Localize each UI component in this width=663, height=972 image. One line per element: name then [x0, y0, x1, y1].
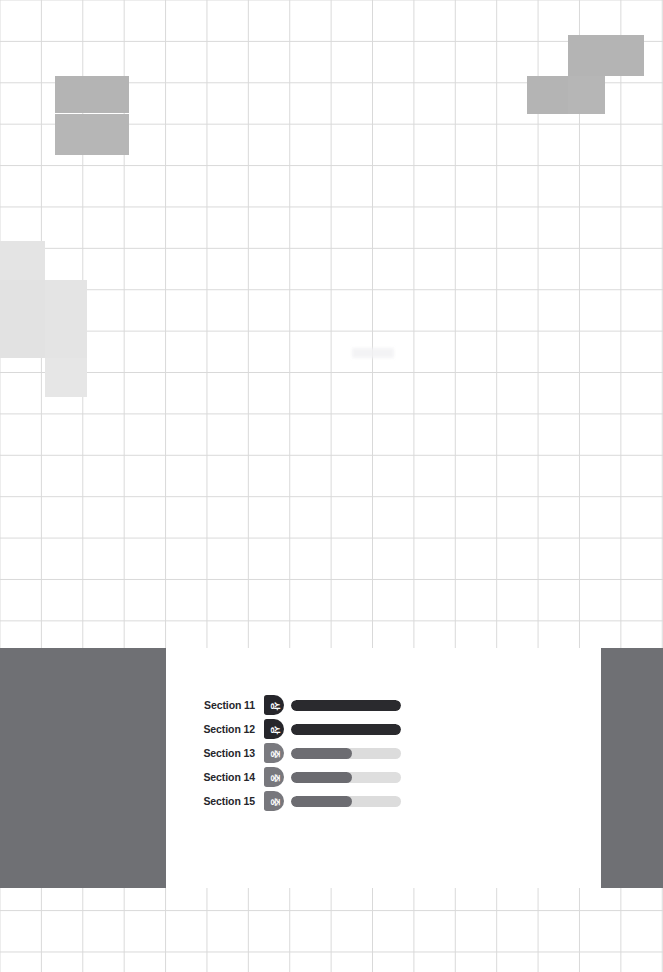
level-badge[interactable]: 중 [264, 791, 284, 811]
section-row[interactable]: Section 13중 [183, 741, 583, 765]
level-badge[interactable]: 중 [264, 743, 284, 763]
cell-mid-left-a [0, 241, 45, 280]
cell-top-left-b [92, 76, 129, 113]
level-badge[interactable]: 상 [264, 719, 284, 739]
section-row[interactable]: Section 15중 [183, 789, 583, 813]
section-progress-list: Section 11상Section 12상Section 13중Section… [183, 693, 583, 813]
progress-bar-track[interactable] [291, 700, 401, 711]
section-row[interactable]: Section 12상 [183, 717, 583, 741]
progress-bar-track[interactable] [291, 772, 401, 783]
section-row[interactable]: Section 14중 [183, 765, 583, 789]
progress-bar-track[interactable] [291, 724, 401, 735]
progress-bar-fill [291, 796, 352, 807]
cell-mid-left-d [0, 319, 45, 358]
cell-mid-left-b [0, 280, 45, 319]
cell-top-left-a [55, 76, 92, 113]
level-badge[interactable]: 상 [264, 695, 284, 715]
page-root: Section 11상Section 12상Section 13중Section… [0, 0, 663, 972]
progress-bar-track[interactable] [291, 796, 401, 807]
level-badge-glyph: 상 [270, 725, 279, 733]
section-row-label: Section 12 [183, 723, 264, 735]
level-badge-glyph: 중 [270, 749, 279, 757]
section-progress-card: Section 11상Section 12상Section 13중Section… [166, 648, 601, 888]
section-row-label: Section 15 [183, 795, 264, 807]
level-badge[interactable]: 중 [264, 767, 284, 787]
progress-bar-fill [291, 748, 352, 759]
level-badge-glyph: 중 [270, 797, 279, 805]
section-row-label: Section 14 [183, 771, 264, 783]
progress-bar-fill [291, 772, 352, 783]
cell-top-right-b [605, 35, 644, 76]
cell-mid-left-e [45, 319, 87, 358]
section-row[interactable]: Section 11상 [183, 693, 583, 717]
progress-bar-fill [291, 724, 401, 735]
cell-top-right-a [568, 35, 605, 76]
cell-mid-left-c [45, 280, 87, 319]
level-badge-glyph: 상 [270, 701, 279, 709]
progress-bar-fill [291, 700, 401, 711]
progress-bar-track[interactable] [291, 748, 401, 759]
cell-top-left-c [55, 114, 92, 155]
section-row-label: Section 11 [183, 699, 264, 711]
cell-mid-left-f [45, 358, 87, 397]
cell-top-right-c [527, 76, 568, 114]
watermark-artifact [352, 348, 394, 358]
section-row-label: Section 13 [183, 747, 264, 759]
cell-top-right-d [568, 76, 605, 114]
cell-top-left-d [92, 114, 129, 155]
level-badge-glyph: 중 [270, 773, 279, 781]
